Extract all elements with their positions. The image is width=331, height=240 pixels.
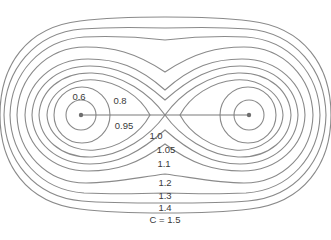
label-0.6: 0.6	[72, 91, 85, 102]
label-0.95: 0.95	[115, 120, 134, 131]
label-1.05: 1.05	[157, 144, 176, 155]
left-mass-dot	[79, 113, 83, 117]
contour-diagram: 0.6 0.8 0.95 1.0 1.05 1.1 1.2 1.3 1.4 C …	[0, 0, 331, 240]
right-mass-dot	[247, 113, 251, 117]
label-1.4: 1.4	[158, 202, 171, 213]
label-0.8: 0.8	[113, 95, 126, 106]
label-1.2: 1.2	[158, 177, 171, 188]
label-1.3: 1.3	[158, 190, 171, 201]
label-1.1: 1.1	[157, 158, 170, 169]
label-c-1.5: C = 1.5	[150, 214, 181, 225]
label-1.0: 1.0	[149, 130, 162, 141]
